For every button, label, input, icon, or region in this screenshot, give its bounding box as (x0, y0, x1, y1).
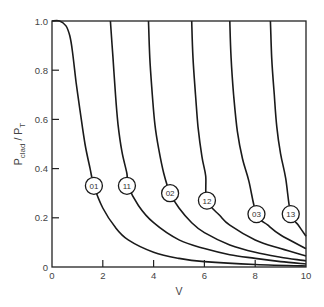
label-text: 11 (123, 182, 132, 191)
curve-label-lp03: 03 (248, 206, 265, 223)
x-tick-label: 8 (253, 270, 258, 281)
label-text: 03 (252, 210, 261, 219)
y-axis-label: Pclad / PT (12, 123, 27, 165)
curve-label-lp12: 12 (198, 192, 215, 209)
y-label-sub2: T (18, 123, 27, 128)
label-text: 01 (89, 182, 98, 191)
curve-label-lp13: 13 (282, 206, 299, 223)
label-text: 12 (202, 197, 211, 206)
y-label-sep: / P (12, 128, 24, 144)
y-tick-label: 0.4 (35, 163, 48, 174)
curve-labels: 011102120313 (85, 177, 299, 222)
curves-group (52, 21, 306, 266)
curve-label-lp02: 02 (162, 185, 179, 202)
y-tick-label: 0.6 (35, 114, 48, 125)
curve-label-lp01: 01 (85, 177, 102, 194)
y-tick-label: 0.2 (35, 212, 48, 223)
label-text: 13 (286, 210, 295, 219)
y-tick-label: 0 (43, 262, 48, 273)
curve-lp11 (110, 21, 306, 264)
chart: 00.20.40.60.81.0 0246810 011102120313 V … (0, 0, 324, 307)
x-tick-label: 4 (151, 270, 156, 281)
curve-lp01 (52, 21, 306, 266)
curve-lp02 (149, 21, 307, 261)
svg-text:Pclad / PT: Pclad / PT (12, 123, 27, 165)
x-tick-label: 0 (49, 270, 54, 281)
curve-lp13 (270, 21, 306, 236)
x-tick-label: 2 (100, 270, 105, 281)
curve-label-lp11: 11 (118, 177, 135, 194)
y-label-sub1: clad (18, 143, 27, 158)
x-axis-label: V (175, 285, 182, 297)
x-axis-ticks: 0246810 (49, 260, 311, 281)
y-tick-label: 0.8 (35, 65, 48, 76)
x-tick-label: 6 (202, 270, 207, 281)
label-text: 02 (166, 189, 175, 198)
y-label-main: P (12, 158, 24, 165)
x-tick-label: 10 (301, 270, 312, 281)
y-axis-ticks: 00.20.40.60.81.0 (35, 16, 59, 273)
plot-frame (52, 21, 306, 267)
y-tick-label: 1.0 (35, 16, 48, 27)
